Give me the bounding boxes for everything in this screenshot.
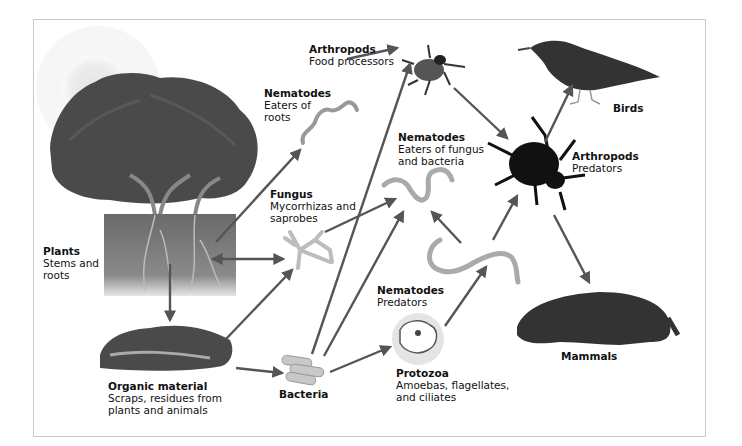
nematodes-fb-desc-2: and bacteria xyxy=(398,155,484,167)
nematode-predators-icon xyxy=(430,240,518,282)
protozoa-icon xyxy=(392,313,444,365)
organic-desc-1: Scraps, residues from xyxy=(108,392,222,404)
nematodes-fb-title: Nematodes xyxy=(398,131,484,143)
label-mammals: Mammals xyxy=(561,350,617,362)
arthropods-pred-desc-1: Predators xyxy=(572,162,639,174)
label-protozoa: Protozoa Amoebas, flagellates, and cilia… xyxy=(396,367,509,403)
fungus-title: Fungus xyxy=(270,188,356,200)
bacteria-title: Bacteria xyxy=(279,388,328,400)
plants-title: Plants xyxy=(43,245,99,257)
label-nematodes-roots: Nematodes Eaters of roots xyxy=(264,87,331,123)
arthropods-pred-title: Arthropods xyxy=(572,150,639,162)
nematodes-roots-desc-1: Eaters of xyxy=(264,99,331,111)
nematodes-roots-title: Nematodes xyxy=(264,87,331,99)
label-fungus: Fungus Mycorrhizas and saprobes xyxy=(270,188,356,224)
nematodes-pred-title: Nematodes xyxy=(377,284,444,296)
nematodes-roots-desc-2: roots xyxy=(264,111,331,123)
nematodes-pred-desc-1: Predators xyxy=(377,296,444,308)
arthropod-predator-icon xyxy=(488,117,585,210)
mammal-icon xyxy=(517,292,678,345)
bacteria-icon xyxy=(281,355,324,386)
label-nematodes-predators: Nematodes Predators xyxy=(377,284,444,308)
fungus-desc-1: Mycorrhizas and xyxy=(270,200,356,212)
bird-icon xyxy=(518,41,660,104)
protozoa-title: Protozoa xyxy=(396,367,509,379)
label-arthropods-food-processors: Arthropods Food processors xyxy=(309,43,394,67)
arthropods-food-title: Arthropods xyxy=(309,43,394,55)
nematode-fungus-bacteria-icon xyxy=(384,170,452,200)
organic-title: Organic material xyxy=(108,380,222,392)
plants-desc-1: Stems and xyxy=(43,257,99,269)
label-arthropods-predators: Arthropods Predators xyxy=(572,150,639,174)
label-birds: Birds xyxy=(613,102,644,114)
plants-desc-2: roots xyxy=(43,269,99,281)
label-nematodes-fungus-bacteria: Nematodes Eaters of fungus and bacteria xyxy=(398,131,484,167)
organic-desc-2: plants and animals xyxy=(108,404,222,416)
arthropod-food-processor-icon xyxy=(402,45,465,95)
fungus-desc-2: saprobes xyxy=(270,212,356,224)
label-plants: Plants Stems and roots xyxy=(43,245,99,281)
protozoa-desc-2: and ciliates xyxy=(396,391,509,403)
organic-material-icon xyxy=(100,326,232,371)
label-organic-material: Organic material Scraps, residues from p… xyxy=(108,380,222,416)
birds-title: Birds xyxy=(613,102,644,114)
mammals-title: Mammals xyxy=(561,350,617,362)
fungus-icon xyxy=(285,232,332,268)
protozoa-desc-1: Amoebas, flagellates, xyxy=(396,379,509,391)
label-bacteria: Bacteria xyxy=(279,388,328,400)
nematodes-fb-desc-1: Eaters of fungus xyxy=(398,143,484,155)
arthropods-food-desc-1: Food processors xyxy=(309,55,394,67)
